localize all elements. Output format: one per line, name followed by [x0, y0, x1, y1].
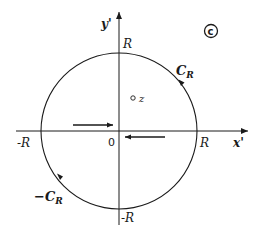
ccw-arrow-icon-upper [179, 80, 185, 87]
x-axis-label: x' [232, 136, 244, 150]
label-top-r: R [122, 37, 132, 51]
y-axis-label: y' [100, 17, 112, 31]
point-z-label: z [138, 93, 145, 104]
label-right-r: R [199, 136, 209, 150]
contour-label-upper: CR [176, 63, 194, 80]
contour-lower-prefix: − [34, 189, 45, 204]
label-left-r: -R [17, 136, 30, 150]
origin-label: 0 [108, 136, 115, 149]
contour-lower-name: C [45, 189, 56, 204]
contour-upper-name: C [176, 63, 187, 78]
label-bottom-r: -R [121, 211, 134, 225]
contour-label-lower: −CR [34, 189, 63, 206]
panel-label-text: c [208, 26, 214, 37]
point-z-marker [131, 96, 135, 100]
panel-label: c [205, 25, 218, 38]
contour-diagram: z y' x' 0 R R -R -R CR −CR c [0, 0, 259, 237]
contour-upper-subscript: R [185, 70, 194, 80]
contour-lower-subscript: R [54, 196, 63, 206]
